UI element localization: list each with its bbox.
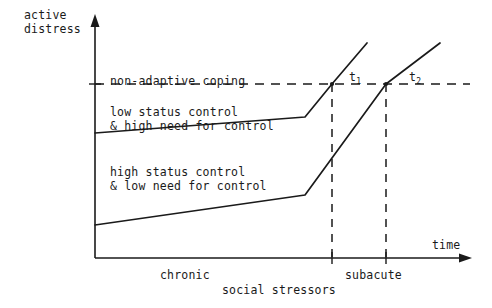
- phase-label-chronic: chronic: [160, 268, 210, 282]
- series-label-low-status-control: low status control& high need for contro…: [110, 105, 274, 133]
- marker-t2-sub: 2: [416, 77, 421, 86]
- y-axis: [91, 14, 100, 258]
- series-label-low-status-control-line1: low status control: [110, 105, 238, 119]
- marker-t2: t2: [409, 70, 421, 86]
- y-axis-label: activedistress: [24, 8, 81, 36]
- x-axis-label: time: [432, 238, 461, 252]
- crossing-point-t2: [384, 82, 388, 86]
- diagram-canvas: activedistress time non-adaptive coping …: [0, 0, 492, 308]
- phase-label-subacute: subacute: [345, 268, 402, 282]
- series-label-high-status-control-line1: high status control: [110, 165, 245, 179]
- x-axis: [95, 254, 472, 263]
- x-axis-caption: social stressors: [222, 283, 336, 297]
- series-label-high-status-control: high status control& low need for contro…: [110, 165, 267, 193]
- y-axis-label-line1: active: [24, 8, 67, 22]
- series-line-high-status-control: [95, 43, 440, 225]
- crossing-point-t1: [330, 82, 334, 86]
- marker-t1-sub: 1: [356, 77, 361, 86]
- diagram-vector-layer: [0, 0, 492, 308]
- marker-t1: t1: [349, 70, 361, 86]
- series-label-low-status-control-line2: & high need for control: [110, 119, 274, 133]
- series-label-high-status-control-line2: & low need for control: [110, 179, 267, 193]
- threshold-label: non-adaptive coping: [110, 74, 245, 88]
- y-axis-label-line2: distress: [24, 22, 81, 36]
